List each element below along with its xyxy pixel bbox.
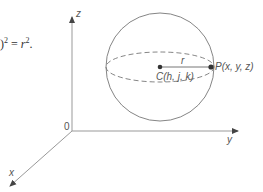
center-label: C(h, j, k)	[156, 71, 194, 82]
equation: )2=r2.	[0, 36, 32, 51]
point-p-label: P(x, y, z)	[215, 61, 254, 72]
origin-label: 0	[64, 121, 70, 132]
sphere-diagram: )2=r2. z y x 0 r C(h, j, k) P(x, y, z)	[0, 0, 263, 192]
y-axis-label: y	[226, 134, 233, 145]
radius-label: r	[181, 55, 185, 66]
x-axis	[10, 131, 72, 186]
x-axis-label: x	[8, 167, 15, 178]
point-p	[208, 64, 213, 69]
center-point	[158, 65, 163, 70]
z-axis-label: z	[75, 8, 81, 19]
